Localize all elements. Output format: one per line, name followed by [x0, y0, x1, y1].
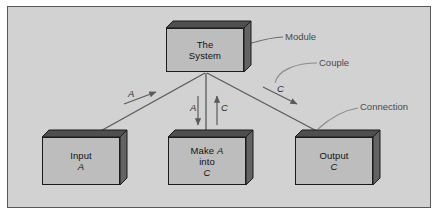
output-c-box[interactable]: OutputC [295, 137, 373, 185]
make-a-into-c-box[interactable]: Make AintoC [168, 137, 246, 185]
make-a-into-c-box-side-face [246, 130, 253, 185]
diagram-figure: TheSystem InputA Make AintoC OutputC Mod… [0, 0, 446, 217]
input-a-box-top-face [42, 130, 127, 137]
callout-leader-couple [275, 63, 317, 83]
couple-label-center-c: C [221, 103, 228, 113]
input-a-box-face: InputA [42, 137, 120, 185]
callout-leader-module [248, 37, 283, 44]
output-c-box-face: OutputC [295, 137, 373, 185]
input-a-box[interactable]: InputA [42, 137, 120, 185]
couple-annotation-label: Couple [319, 57, 349, 68]
couple-label-right-c: C [277, 84, 284, 94]
output-c-box-top-face [295, 130, 380, 137]
couple-label-left-a: A [128, 89, 134, 99]
output-c-box-side-face [373, 130, 380, 185]
the-system-box[interactable]: TheSystem [166, 28, 244, 72]
the-system-box-label: TheSystem [189, 39, 221, 61]
make-a-into-c-box-label: Make AintoC [191, 145, 224, 178]
input-a-box-side-face [120, 130, 127, 185]
connection-line-input [88, 73, 205, 138]
output-c-box-label: OutputC [319, 150, 348, 172]
make-a-into-c-box-top-face [168, 130, 253, 137]
couple-label-center-a: A [190, 103, 196, 113]
callout-leader-connection [318, 108, 358, 129]
connection-annotation-label: Connection [360, 101, 408, 112]
the-system-box-side-face [244, 21, 251, 72]
input-a-box-label: InputA [70, 150, 92, 172]
the-system-box-top-face [166, 21, 251, 28]
the-system-box-face: TheSystem [166, 28, 244, 72]
module-annotation-label: Module [285, 31, 316, 42]
make-a-into-c-box-face: Make AintoC [168, 137, 246, 185]
